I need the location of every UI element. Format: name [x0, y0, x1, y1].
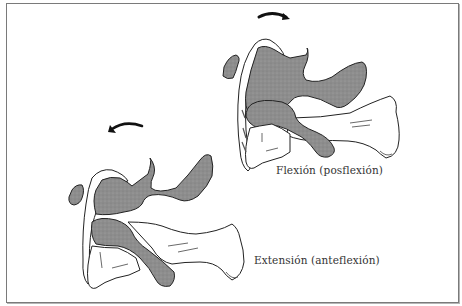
extension-label: Extensión (anteflexión)	[254, 254, 380, 266]
counterclockwise-arrow-icon	[108, 124, 142, 133]
flexion-label: Flexión (posflexión)	[276, 164, 383, 176]
vertebrae-illustration	[0, 0, 462, 306]
clockwise-arrow-icon	[259, 13, 290, 20]
flexion-vertebrae	[223, 13, 399, 171]
extension-vertebrae	[69, 124, 244, 289]
